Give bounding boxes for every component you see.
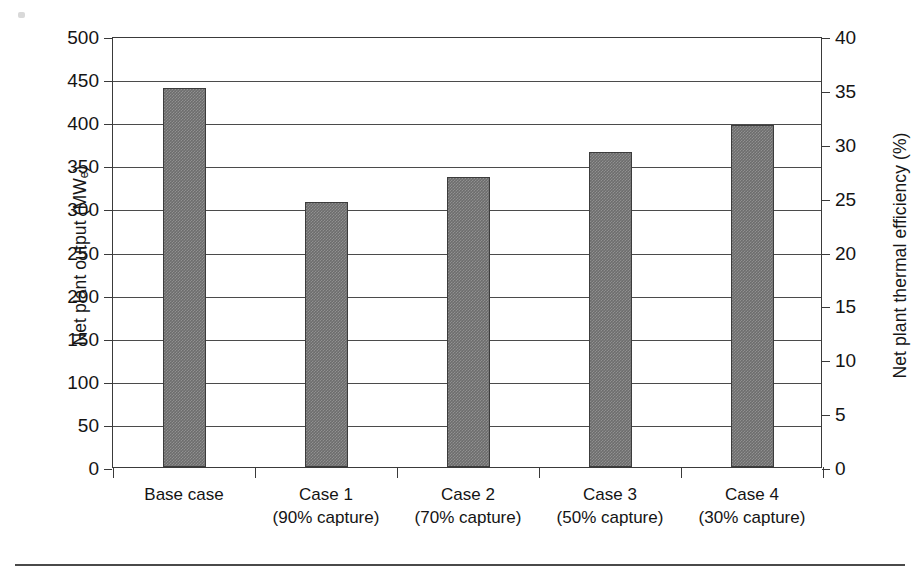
x-category-label: Case 2(70% capture)	[415, 483, 522, 529]
y-tick-left	[104, 383, 112, 384]
x-category-label-sub: (50% capture)	[557, 506, 664, 529]
y-tick-label-right: 40	[835, 27, 856, 49]
y-tick-label-left: 250	[67, 242, 99, 264]
bar	[589, 152, 632, 467]
y-tick-left	[104, 340, 112, 341]
x-tick	[539, 467, 540, 478]
x-tick	[255, 467, 256, 478]
x-category-label: Case 3(50% capture)	[557, 483, 664, 529]
y-tick-left	[104, 426, 112, 427]
y-tick-label-left: 400	[67, 113, 99, 135]
y-tick-label-right: 20	[835, 242, 856, 264]
gridline	[113, 167, 821, 168]
y-tick-label-left: 150	[67, 328, 99, 350]
bar	[731, 125, 774, 467]
y-tick-left	[104, 469, 112, 470]
gridline	[113, 124, 821, 125]
x-tick	[397, 467, 398, 478]
y-tick-label-right: 0	[835, 458, 846, 480]
y-tick-label-right: 5	[835, 404, 846, 426]
x-category-label-main: Case 2	[441, 485, 495, 504]
y-tick-label-left: 500	[67, 27, 99, 49]
y-tick-right	[822, 38, 830, 39]
bar	[305, 202, 348, 467]
y-tick-label-left: 100	[67, 371, 99, 393]
x-tick-end	[113, 467, 114, 478]
y-tick-right	[822, 146, 830, 147]
x-category-label-main: Base case	[144, 485, 223, 504]
y-tick-label-right: 30	[835, 134, 856, 156]
y-tick-right	[822, 361, 830, 362]
y-tick-left	[104, 124, 112, 125]
x-category-label: Base case	[144, 483, 223, 506]
y-tick-label-right: 15	[835, 296, 856, 318]
y-tick-label-left: 50	[78, 414, 99, 436]
y-tick-right	[822, 200, 830, 201]
scan-artifact-speck	[18, 12, 25, 18]
plot-area: 050100150200250300350400450500 051015202…	[112, 37, 822, 468]
x-category-label-sub: (90% capture)	[273, 506, 380, 529]
y-tick-label-right: 25	[835, 188, 856, 210]
y-tick-label-right: 10	[835, 350, 856, 372]
y-tick-left	[104, 210, 112, 211]
x-category-label: Case 4(30% capture)	[699, 483, 806, 529]
y-tick-left	[104, 38, 112, 39]
y-tick-right	[822, 307, 830, 308]
y-tick-right	[822, 254, 830, 255]
x-category-label-sub: (30% capture)	[699, 506, 806, 529]
y-tick-right	[822, 415, 830, 416]
bar	[447, 177, 490, 467]
gridline	[113, 81, 821, 82]
y-tick-label-left: 200	[67, 285, 99, 307]
x-tick	[681, 467, 682, 478]
y-tick-label-right: 35	[835, 80, 856, 102]
figure-bar-chart: Net plant output (MWe) Net plant thermal…	[0, 0, 920, 572]
y-tick-left	[104, 167, 112, 168]
x-category-label: Case 1(90% capture)	[273, 483, 380, 529]
y-axis-right-title: Net plant thermal efficiency (%)	[890, 46, 911, 466]
figure-bottom-rule	[15, 564, 905, 566]
y-tick-label-left: 350	[67, 156, 99, 178]
x-category-label-sub: (70% capture)	[415, 506, 522, 529]
y-tick-label-left: 300	[67, 199, 99, 221]
x-tick-end	[823, 467, 824, 478]
y-tick-left	[104, 254, 112, 255]
y-tick-label-left: 450	[67, 70, 99, 92]
x-category-label-main: Case 3	[583, 485, 637, 504]
y-tick-label-left: 0	[88, 458, 99, 480]
bar	[163, 88, 206, 467]
x-category-label-main: Case 1	[299, 485, 353, 504]
y-tick-left	[104, 81, 112, 82]
y-tick-left	[104, 297, 112, 298]
y-tick-right	[822, 92, 830, 93]
x-category-label-main: Case 4	[725, 485, 779, 504]
